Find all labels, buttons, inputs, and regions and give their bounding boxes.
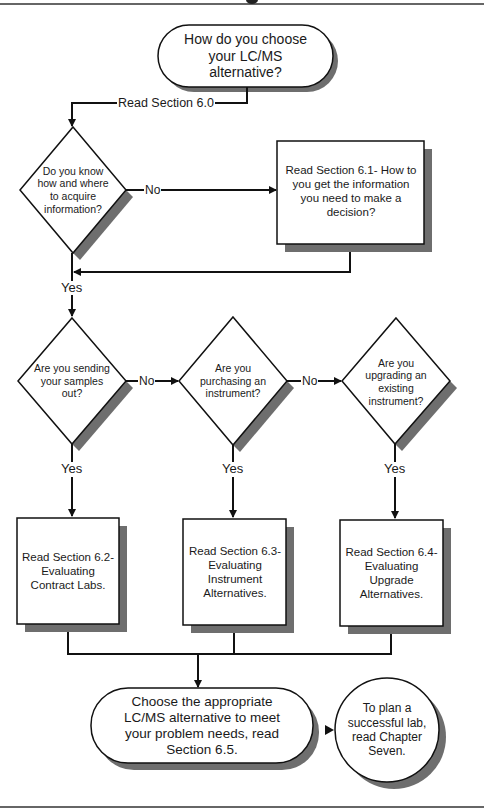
q2-no-label: No — [138, 374, 155, 388]
edge-start-label: Read Section 6.0 — [117, 96, 215, 110]
edge-6-1-return — [74, 252, 350, 272]
q4-yes-label: Yes — [383, 462, 406, 476]
q2-yes-label: Yes — [60, 462, 83, 476]
edge-merge-bar — [68, 632, 391, 654]
end-label: Choose the appropriate LC/MS alternative… — [116, 690, 288, 762]
box-6-2-label: Read Section 6.2- Evaluating Contract La… — [19, 540, 117, 604]
start-label: How do you choose your LC/MS alternative… — [172, 28, 319, 84]
q1-label: Do you know how and where to acquire inf… — [33, 160, 113, 220]
box-6-1-label: Read Section 6.1- How to you get the inf… — [282, 160, 420, 224]
box-6-4-label: Read Section 6.4- Evaluating Upgrade Alt… — [342, 542, 441, 606]
q2-label: Are you sending your samples out? — [32, 357, 112, 405]
q1-yes-label: Yes — [60, 281, 83, 295]
q3-label: Are you purchasing an instrument? — [193, 357, 273, 405]
q3-yes-label: Yes — [221, 462, 244, 476]
box-6-3-label: Read Section 6.3- Evaluating Instrument … — [186, 535, 284, 611]
q1-no-label: No — [144, 183, 161, 197]
arrow-to-connector — [325, 725, 334, 735]
next-label: To plan a successful lab, read Chapter S… — [347, 700, 427, 760]
q3-no-label: No — [301, 374, 318, 388]
q4-label: Are you upgrading an existing instrument… — [356, 352, 436, 412]
